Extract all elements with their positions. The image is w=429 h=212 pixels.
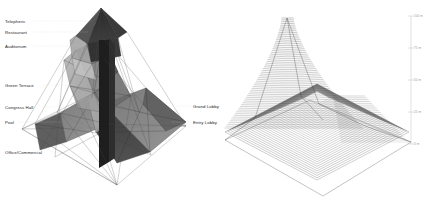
program-label-restaurant: Restaurant (5, 30, 27, 35)
elevation-tick-label: 0 m (414, 142, 419, 146)
program-label-congress-hall: Congress Hall (5, 105, 33, 110)
program-label-telepheric: Telepheric (5, 19, 26, 24)
elevation-tick-label: 25 m (414, 110, 421, 114)
elevation-tick-label: 100 m (414, 14, 423, 18)
program-label-office-commercial: Office/Commercial (5, 150, 42, 155)
peak-ridge-lines (225, 18, 411, 142)
elevation-tick-label: 75 m (414, 46, 421, 50)
right-figure (215, 0, 429, 212)
program-label-pool: Pool (5, 120, 14, 125)
pool-congress-mass (35, 92, 108, 150)
vertical-core-shaft (99, 40, 115, 168)
elevation-tick-label: 50 m (414, 78, 421, 82)
contour-terrain-svg (215, 0, 429, 212)
program-label-auditorium: Auditorium (5, 44, 27, 49)
program-label-entry-lobby: Entry Lobby (193, 120, 217, 125)
program-label-green-terrace: Green Terrace (5, 83, 34, 88)
program-label-grand-lobby: Grand Lobby (193, 104, 219, 109)
diagram-canvas: TelephericRestaurantAuditoriumGreen Terr… (0, 0, 429, 212)
